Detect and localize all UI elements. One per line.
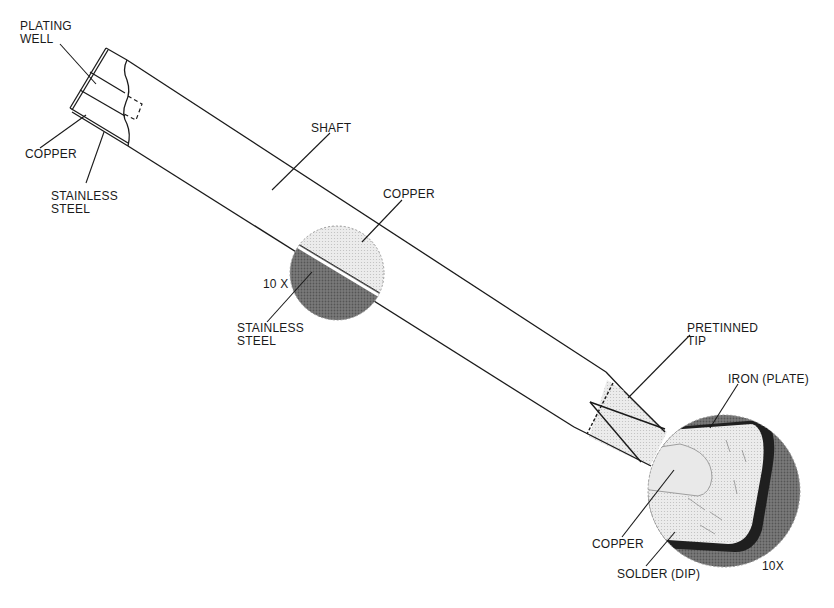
label-copper-base: COPPER [25, 148, 77, 161]
label-stainless-steel-mid: STAINLESS STEEL [237, 322, 304, 348]
label-iron-plate: IRON (PLATE) [728, 373, 809, 386]
label-magnification-tip: 10X [762, 560, 784, 573]
label-shaft: SHAFT [311, 122, 351, 135]
label-plating-well: PLATING WELL [20, 20, 72, 46]
mid-magnified-circle [280, 220, 400, 330]
diagram-canvas [0, 0, 834, 608]
label-magnification-mid: 10 X [263, 278, 289, 291]
leader-lines [40, 44, 738, 566]
tip-magnified-circle [640, 410, 810, 580]
label-solder-dip: SOLDER (DIP) [617, 568, 700, 581]
label-copper-tip: COPPER [592, 538, 644, 551]
label-copper-mid: COPPER [383, 188, 435, 201]
plating-well-dashed [122, 96, 142, 120]
label-pretinned-tip: PRETINNED TIP [687, 322, 758, 348]
label-stainless-steel-base: STAINLESS STEEL [51, 190, 118, 216]
shaft-base-end [70, 48, 129, 146]
